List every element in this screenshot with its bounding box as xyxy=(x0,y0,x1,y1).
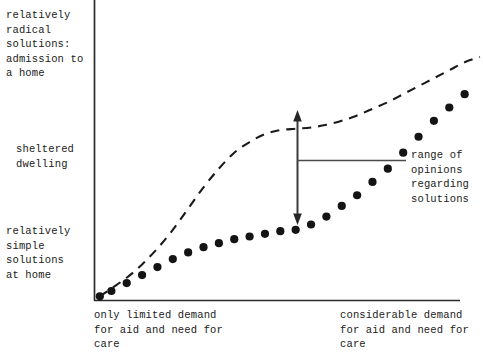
data-point xyxy=(169,255,177,263)
data-point xyxy=(384,165,392,173)
data-point xyxy=(292,226,300,234)
y-axis-label-sheltered-dwelling: sheltered dwelling xyxy=(16,142,74,171)
data-point xyxy=(461,90,469,98)
y-axis-label-radical-solutions: relatively radical solutions: admission … xyxy=(6,8,83,81)
x-axis-label-limited-demand: only limited demand for aid and need for… xyxy=(94,308,223,352)
range-arrow xyxy=(293,110,302,225)
data-point xyxy=(261,230,269,238)
y-axis-label-simple-solutions: relatively simple solutions at home xyxy=(6,224,71,282)
annotation-range-of-opinions: range of opinions regarding solutions xyxy=(411,148,469,206)
data-point xyxy=(368,178,376,186)
data-point xyxy=(430,117,438,125)
data-point xyxy=(230,235,238,243)
data-point xyxy=(138,271,146,279)
data-point xyxy=(96,292,104,300)
data-point xyxy=(322,212,330,220)
data-point xyxy=(246,232,254,240)
data-point xyxy=(414,133,422,141)
data-point xyxy=(215,239,223,247)
data-point xyxy=(199,243,207,251)
x-axis-label-considerable-demand: considerable demand for aid and need for… xyxy=(340,308,469,352)
data-point xyxy=(445,103,453,111)
data-point xyxy=(399,149,407,157)
data-point xyxy=(338,202,346,210)
data-point xyxy=(123,279,131,287)
data-point xyxy=(184,248,192,256)
chart-canvas: relatively radical solutions: admission … xyxy=(0,0,483,358)
data-point xyxy=(307,220,315,228)
data-point xyxy=(276,227,284,235)
data-point xyxy=(153,263,161,271)
data-point xyxy=(353,191,361,199)
range-arrow-head-up xyxy=(293,110,302,122)
data-point xyxy=(107,287,115,295)
range-arrow-head-down xyxy=(293,214,302,226)
